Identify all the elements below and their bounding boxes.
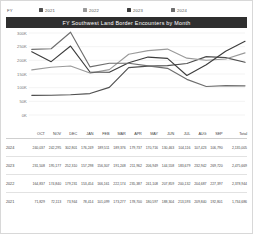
table-cell-total: 2,475,669 bbox=[223, 157, 247, 175]
table-cell: 173,277 bbox=[110, 193, 126, 211]
legend-title: FY bbox=[7, 8, 39, 13]
table-cell: 240,037 bbox=[29, 139, 45, 157]
table-cell: 192,801 bbox=[206, 193, 222, 211]
table-cell: 211,962 bbox=[126, 157, 142, 175]
row-label-year: 2024 bbox=[6, 139, 29, 157]
table-cell: 170,716 bbox=[142, 139, 158, 157]
table-cell: 242,295 bbox=[45, 139, 61, 157]
column-header-month: JAN bbox=[77, 127, 93, 139]
series-line-2022 bbox=[32, 49, 245, 73]
series-line-2021 bbox=[32, 57, 245, 96]
legend-item-2024[interactable]: 2024 bbox=[171, 8, 215, 13]
table-cell: 104,116 bbox=[174, 139, 190, 157]
table-cell: 269,720 bbox=[206, 157, 222, 175]
y-axis-tick-label: 200K bbox=[17, 58, 27, 63]
table-cell-total: 2,378,944 bbox=[223, 175, 247, 193]
table-body: 2024240,037242,295302,801176,249189,5111… bbox=[6, 139, 247, 211]
table-cell: 231,508 bbox=[29, 157, 45, 175]
legend-item-2022[interactable]: 2022 bbox=[83, 8, 127, 13]
chart-title: FY Southwest Land Border Encounters by M… bbox=[6, 17, 247, 28]
legend-item-2021[interactable]: 2021 bbox=[39, 8, 83, 13]
column-header-month: AUG bbox=[190, 127, 206, 139]
table-cell: 235,387 bbox=[126, 175, 142, 193]
table-cell: 189,376 bbox=[110, 139, 126, 157]
table-cell: 213,593 bbox=[174, 193, 190, 211]
table-cell: 200,132 bbox=[174, 175, 190, 193]
column-header-month: DEC bbox=[61, 127, 77, 139]
column-header-total: Total bbox=[223, 127, 247, 139]
column-header-month: APR bbox=[126, 127, 142, 139]
table-cell: 156,307 bbox=[93, 157, 109, 175]
y-axis-tick-label: 100K bbox=[17, 86, 27, 91]
y-axis-tick-label: 300K bbox=[17, 31, 27, 36]
table-cell: 241,108 bbox=[142, 175, 158, 193]
y-axis-tick-label: 250K bbox=[17, 45, 27, 50]
series-line-2023 bbox=[32, 42, 245, 76]
table-cell: 73,944 bbox=[61, 193, 77, 211]
table-cell: 180,597 bbox=[142, 193, 158, 211]
table-row: 202171,82972,11373,94478,414101,099173,2… bbox=[6, 193, 247, 211]
table-cell: 252,310 bbox=[61, 157, 77, 175]
chart-card: FY Southwest Land Border Encounters by M… bbox=[6, 17, 247, 127]
y-axis-tick-label: 50K bbox=[19, 99, 27, 104]
legend-swatch-icon bbox=[83, 8, 87, 12]
legend-swatch-icon bbox=[171, 8, 175, 12]
table-cell: 179,231 bbox=[61, 175, 77, 193]
series-lines bbox=[32, 33, 245, 96]
table-cell: 144,558 bbox=[158, 157, 174, 175]
table-cell: 166,161 bbox=[93, 175, 109, 193]
table-cell: 189,511 bbox=[93, 139, 109, 157]
table-cell: 179,737 bbox=[126, 139, 142, 157]
plot-area: 0K50K100K150K200K250K300K bbox=[6, 29, 247, 127]
column-header-month: SEP bbox=[206, 127, 222, 139]
legend-item-label: 2022 bbox=[89, 8, 99, 13]
table-cell: 78,414 bbox=[77, 193, 93, 211]
table-cell: 209,840 bbox=[190, 193, 206, 211]
column-header-month: MAR bbox=[110, 127, 126, 139]
legend-item-label: 2023 bbox=[133, 8, 143, 13]
table-cell: 206,949 bbox=[142, 157, 158, 175]
row-label-year: 2022 bbox=[6, 175, 29, 193]
legend-item-label: 2021 bbox=[45, 8, 55, 13]
column-header-month: JUL bbox=[174, 127, 190, 139]
table-cell: 130,463 bbox=[158, 139, 174, 157]
table-header-row: OCTNOVDECJANFEBMARAPRMAYJUNJULAUGSEPTota… bbox=[6, 127, 247, 139]
table-cell: 164,837 bbox=[29, 175, 45, 193]
table-cell-total: 1,734,686 bbox=[223, 193, 247, 211]
table-row: 2023231,508195,177252,310157,298156,3071… bbox=[6, 157, 247, 175]
column-header-month: NOV bbox=[45, 127, 61, 139]
table-cell: 195,177 bbox=[45, 157, 61, 175]
data-table: OCTNOVDECJANFEBMARAPRMAYJUNJULAUGSEPTota… bbox=[6, 127, 247, 210]
table-cell: 183,679 bbox=[174, 157, 190, 175]
table-cell: 178,700 bbox=[126, 193, 142, 211]
table-cell: 191,248 bbox=[110, 157, 126, 175]
table-cell: 71,829 bbox=[29, 193, 45, 211]
table-row: 2024240,037242,295302,801176,249189,5111… bbox=[6, 139, 247, 157]
row-label-year: 2023 bbox=[6, 157, 29, 175]
y-axis-labels: 0K50K100K150K200K250K300K bbox=[17, 31, 27, 118]
y-axis-tick-label: 0K bbox=[22, 113, 27, 118]
column-header-month: MAY bbox=[142, 127, 158, 139]
table-cell: 106,790 bbox=[206, 139, 222, 157]
legend-item-label: 2024 bbox=[177, 8, 187, 13]
y-axis-tick-label: 150K bbox=[17, 72, 27, 77]
row-label-year: 2021 bbox=[6, 193, 29, 211]
column-header-year bbox=[6, 127, 29, 139]
table-cell: 157,298 bbox=[77, 157, 93, 175]
table-cell-total: 2,135,005 bbox=[223, 139, 247, 157]
table-cell: 207,859 bbox=[158, 175, 174, 193]
table-cell: 174,840 bbox=[45, 175, 61, 193]
table-cell: 232,942 bbox=[190, 157, 206, 175]
table-cell: 227,397 bbox=[206, 175, 222, 193]
table-cell: 107,423 bbox=[190, 139, 206, 157]
legend: FY 2021 2022 2023 2024 bbox=[1, 1, 252, 16]
table-cell: 188,304 bbox=[158, 193, 174, 211]
table-cell: 101,099 bbox=[93, 193, 109, 211]
legend-item-2023[interactable]: 2023 bbox=[127, 8, 171, 13]
table-cell: 222,174 bbox=[110, 175, 126, 193]
column-header-month: OCT bbox=[29, 127, 45, 139]
column-header-month: FEB bbox=[93, 127, 109, 139]
table-cell: 153,454 bbox=[77, 175, 93, 193]
table-cell: 204,687 bbox=[190, 175, 206, 193]
column-header-month: JUN bbox=[158, 127, 174, 139]
